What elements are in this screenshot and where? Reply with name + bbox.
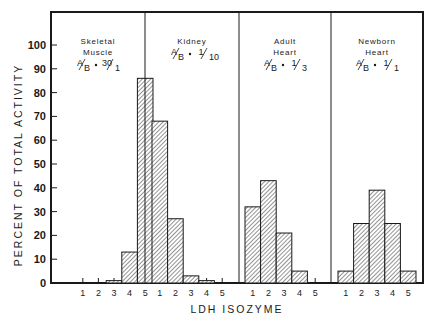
svg-text:3: 3 bbox=[302, 63, 307, 73]
x-tick-label: 2 bbox=[173, 288, 178, 298]
x-tick-label: 1 bbox=[250, 288, 255, 298]
x-tick-label: 1 bbox=[157, 288, 162, 298]
svg-text:10: 10 bbox=[209, 52, 219, 62]
svg-text:1: 1 bbox=[115, 63, 120, 73]
ab-ratio: AB110 bbox=[171, 47, 219, 62]
y-tick-label: 70 bbox=[34, 110, 46, 122]
bar-isozyme-1 bbox=[245, 207, 261, 283]
x-tick-label: 3 bbox=[188, 288, 193, 298]
x-tick-label: 5 bbox=[313, 288, 318, 298]
panel-title: Heart bbox=[273, 48, 297, 57]
x-tick-label: 4 bbox=[390, 288, 395, 298]
bar-isozyme-4 bbox=[385, 224, 401, 284]
bar-isozyme-5 bbox=[400, 271, 416, 283]
bar-isozyme-2 bbox=[261, 181, 277, 283]
y-tick-label: 40 bbox=[34, 182, 46, 194]
y-tick-label: 0 bbox=[40, 277, 46, 289]
svg-text:A: A bbox=[77, 58, 83, 68]
y-tick-label: 10 bbox=[34, 253, 46, 265]
panel-title: Muscle bbox=[83, 48, 113, 57]
svg-text:A: A bbox=[356, 58, 362, 68]
y-tick-label: 20 bbox=[34, 229, 46, 241]
x-tick-label: 5 bbox=[220, 288, 225, 298]
panel-kidney: KidneyAB11012345 bbox=[145, 12, 225, 298]
panel-title: Heart bbox=[365, 48, 389, 57]
y-tick-label: 60 bbox=[34, 134, 46, 146]
bar-isozyme-2 bbox=[168, 219, 184, 283]
bar-isozyme-3 bbox=[106, 281, 122, 283]
panel-title: Newborn bbox=[358, 37, 396, 46]
ab-ratio: AB11 bbox=[356, 58, 399, 73]
panel-title: Kidney bbox=[177, 37, 206, 46]
y-tick-label: 100 bbox=[28, 39, 46, 51]
bar-isozyme-4 bbox=[199, 281, 215, 283]
x-tick-label: 3 bbox=[281, 288, 286, 298]
y-axis-ticks: 0102030405060708090100 bbox=[28, 39, 57, 289]
y-tick-label: 50 bbox=[34, 158, 46, 170]
x-tick-label: 1 bbox=[343, 288, 348, 298]
x-tick-label: 5 bbox=[143, 288, 148, 298]
x-tick-label: 2 bbox=[359, 288, 364, 298]
svg-text:1: 1 bbox=[394, 63, 399, 73]
ldh-isozyme-chart: PERCENT OF TOTAL ACTIVITY 01020304050607… bbox=[0, 0, 432, 320]
svg-text:B: B bbox=[178, 52, 184, 62]
y-axis-label: PERCENT OF TOTAL ACTIVITY bbox=[12, 64, 24, 266]
x-axis-label: LDH ISOZYME bbox=[190, 303, 283, 315]
bar-isozyme-3 bbox=[276, 233, 292, 283]
panels: SkeletalMuscleAB30112345KidneyAB11012345… bbox=[77, 12, 416, 298]
ab-ratio: AB13 bbox=[264, 58, 307, 73]
x-tick-label: 2 bbox=[266, 288, 271, 298]
panel-skeletal-muscle: SkeletalMuscleAB30112345 bbox=[77, 37, 153, 298]
y-tick-label: 30 bbox=[34, 206, 46, 218]
x-tick-label: 3 bbox=[111, 288, 116, 298]
bar-isozyme-4 bbox=[122, 252, 138, 283]
bar-isozyme-3 bbox=[369, 190, 385, 283]
svg-text:A: A bbox=[264, 58, 270, 68]
svg-text:B: B bbox=[271, 63, 277, 73]
y-tick-label: 90 bbox=[34, 63, 46, 75]
panel-newborn-heart: NewbornHeartAB1112345 bbox=[331, 12, 416, 298]
svg-text:A: A bbox=[171, 47, 177, 57]
x-tick-label: 4 bbox=[127, 288, 132, 298]
panel-title: Skeletal bbox=[81, 37, 116, 46]
x-tick-label: 3 bbox=[374, 288, 379, 298]
x-tick-label: 1 bbox=[80, 288, 85, 298]
bar-isozyme-1 bbox=[338, 271, 354, 283]
bar-isozyme-1 bbox=[152, 121, 168, 283]
panel-title: Adult bbox=[274, 37, 296, 46]
svg-text:B: B bbox=[84, 63, 90, 73]
bar-isozyme-4 bbox=[292, 271, 308, 283]
x-tick-label: 4 bbox=[204, 288, 209, 298]
x-tick-label: 2 bbox=[96, 288, 101, 298]
bar-isozyme-2 bbox=[354, 224, 370, 284]
panel-adult-heart: AdultHeartAB1312345 bbox=[239, 12, 318, 298]
ab-ratio: AB301 bbox=[77, 58, 120, 73]
bar-isozyme-3 bbox=[183, 276, 199, 283]
x-tick-label: 5 bbox=[406, 288, 411, 298]
y-tick-label: 80 bbox=[34, 87, 46, 99]
x-tick-label: 4 bbox=[297, 288, 302, 298]
svg-text:B: B bbox=[363, 63, 369, 73]
